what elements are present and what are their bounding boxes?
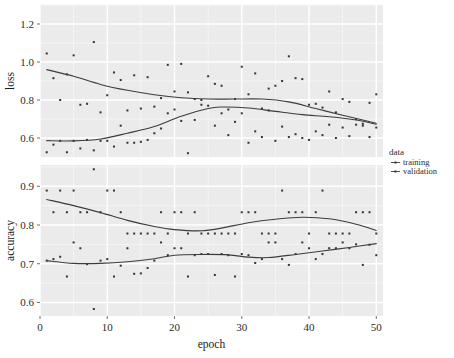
data-point bbox=[194, 211, 196, 213]
data-point bbox=[106, 258, 108, 260]
data-point bbox=[328, 124, 330, 126]
data-point bbox=[321, 107, 323, 109]
data-point bbox=[288, 55, 290, 57]
data-point bbox=[234, 233, 236, 235]
data-point bbox=[221, 112, 223, 114]
data-point bbox=[133, 273, 135, 275]
data-point bbox=[52, 258, 54, 260]
data-point bbox=[133, 233, 135, 235]
data-point bbox=[140, 141, 142, 143]
data-point bbox=[174, 211, 176, 213]
data-point bbox=[147, 139, 149, 141]
data-point bbox=[113, 190, 115, 192]
x-tick-label: 30 bbox=[236, 321, 248, 333]
data-point bbox=[153, 233, 155, 235]
data-point bbox=[308, 247, 310, 249]
data-point bbox=[227, 233, 229, 235]
data-point bbox=[194, 119, 196, 121]
data-point bbox=[288, 211, 290, 213]
data-point bbox=[126, 233, 128, 235]
data-point bbox=[79, 147, 81, 149]
x-tick-label: 0 bbox=[37, 321, 43, 333]
data-point bbox=[234, 276, 236, 278]
y-tick-label: 1.2 bbox=[20, 18, 34, 30]
data-point bbox=[174, 247, 176, 249]
data-point bbox=[73, 241, 75, 243]
data-point bbox=[321, 134, 323, 136]
data-point bbox=[355, 211, 357, 213]
data-point bbox=[274, 140, 276, 142]
data-point bbox=[140, 233, 142, 235]
data-point bbox=[254, 72, 256, 74]
data-point bbox=[46, 190, 48, 192]
data-point bbox=[355, 124, 357, 126]
data-point bbox=[221, 85, 223, 87]
data-point bbox=[241, 211, 243, 213]
data-point bbox=[207, 75, 209, 77]
data-point bbox=[79, 247, 81, 249]
data-point bbox=[66, 276, 68, 278]
data-point bbox=[126, 247, 128, 249]
data-point bbox=[342, 233, 344, 235]
data-point bbox=[113, 146, 115, 148]
data-point bbox=[247, 142, 249, 144]
data-point bbox=[261, 233, 263, 235]
data-point bbox=[214, 83, 216, 85]
data-point bbox=[133, 142, 135, 144]
y-tick-label: 0.7 bbox=[20, 258, 34, 270]
data-point bbox=[180, 247, 182, 249]
data-point bbox=[254, 211, 256, 213]
data-point bbox=[315, 130, 317, 132]
data-point bbox=[375, 233, 377, 235]
y-tick-label: 0.9 bbox=[20, 180, 34, 192]
data-point bbox=[120, 265, 122, 267]
data-point bbox=[66, 151, 68, 153]
y-tick-label: 0.6 bbox=[20, 132, 34, 144]
data-point bbox=[52, 77, 54, 79]
chart-container: 0.60.81.01.2loss0.60.70.80.9accuracy0102… bbox=[0, 0, 454, 358]
data-point bbox=[348, 233, 350, 235]
x-axis-title: epoch bbox=[198, 338, 226, 351]
data-point bbox=[342, 98, 344, 100]
data-point bbox=[93, 168, 95, 170]
data-point bbox=[120, 125, 122, 127]
data-point bbox=[106, 140, 108, 142]
data-point bbox=[153, 260, 155, 262]
data-point bbox=[160, 128, 162, 130]
data-point bbox=[295, 133, 297, 135]
legend-title: data bbox=[389, 147, 404, 157]
data-point bbox=[281, 126, 283, 128]
data-point bbox=[147, 76, 149, 78]
data-point bbox=[160, 241, 162, 243]
data-point bbox=[133, 74, 135, 76]
data-point bbox=[93, 41, 95, 43]
data-point bbox=[321, 190, 323, 192]
data-point bbox=[247, 211, 249, 213]
data-point bbox=[214, 233, 216, 235]
data-point bbox=[100, 260, 102, 262]
data-point bbox=[160, 211, 162, 213]
data-point bbox=[281, 80, 283, 82]
data-point bbox=[221, 233, 223, 235]
data-point bbox=[375, 127, 377, 129]
y-tick-label: 0.8 bbox=[20, 94, 34, 106]
data-point bbox=[187, 233, 189, 235]
data-point bbox=[227, 134, 229, 136]
data-point bbox=[234, 121, 236, 123]
y-axis-title-loss: loss bbox=[4, 72, 16, 90]
data-point bbox=[174, 109, 176, 111]
data-point bbox=[79, 104, 81, 106]
data-point bbox=[241, 112, 243, 114]
data-point bbox=[261, 136, 263, 138]
data-point bbox=[328, 90, 330, 92]
data-point bbox=[174, 90, 176, 92]
facet-panel-loss: 0.60.81.01.2loss bbox=[4, 5, 383, 157]
data-point bbox=[362, 264, 364, 266]
data-point bbox=[93, 308, 95, 310]
data-point bbox=[86, 211, 88, 213]
data-point bbox=[200, 104, 202, 106]
data-point bbox=[227, 109, 229, 111]
data-point bbox=[46, 52, 48, 54]
y-axis-title-accuracy: accuracy bbox=[4, 220, 17, 261]
data-point bbox=[274, 241, 276, 243]
